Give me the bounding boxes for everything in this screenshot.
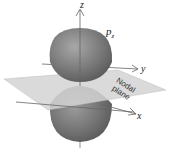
y-axis-label: y: [141, 64, 145, 74]
orbital-label: pz: [106, 26, 114, 40]
pz-orbital-diagram: [0, 0, 174, 148]
z-axis-label: z: [80, 0, 84, 10]
orbital-label-subscript: z: [112, 32, 115, 40]
x-axis-label: x: [137, 111, 141, 121]
upper-lobe: [50, 28, 113, 82]
